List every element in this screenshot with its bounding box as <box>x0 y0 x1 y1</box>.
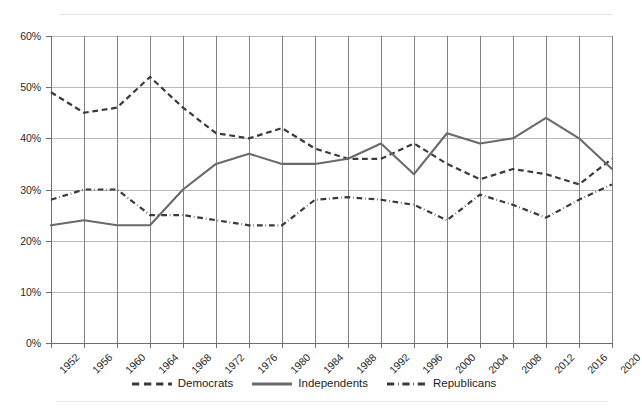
gridline-x-2020 <box>612 36 613 343</box>
legend-swatch-independents <box>252 380 292 388</box>
y-tick-label: 40% <box>20 132 41 144</box>
x-tick-mark <box>612 343 613 348</box>
x-tick-label: 1988 <box>354 351 379 376</box>
y-tick-label: 20% <box>20 235 41 247</box>
x-tick-label: 1992 <box>387 351 412 376</box>
x-tick-label: 1976 <box>255 351 280 376</box>
series-lines <box>51 36 612 345</box>
legend-label: Democrats <box>178 378 234 390</box>
x-tick-label: 2004 <box>486 351 511 376</box>
x-tick-label: 1972 <box>222 351 247 376</box>
chart-legend: DemocratsIndependentsRepublicans <box>0 378 628 390</box>
plot-area: 60%50%40%30%20%10%0% 1952195619601964196… <box>51 36 612 343</box>
x-tick-label: 2000 <box>453 351 478 376</box>
x-tick-label: 2012 <box>552 351 577 376</box>
legend-label: Independents <box>298 378 368 390</box>
y-tick-label: 60% <box>20 30 41 42</box>
x-tick-label: 1996 <box>420 351 445 376</box>
x-tick-label: 1968 <box>189 351 214 376</box>
legend-item-republicans[interactable]: Republicans <box>387 378 496 390</box>
y-tick-label: 10% <box>20 286 41 298</box>
x-tick-label: 2020 <box>618 351 642 376</box>
x-tick-label: 1956 <box>90 351 115 376</box>
y-tick-label: 50% <box>20 81 41 93</box>
x-tick-label: 1984 <box>321 351 346 376</box>
legend-label: Republicans <box>433 378 496 390</box>
x-tick-label: 1952 <box>57 351 82 376</box>
legend-swatch-republicans <box>387 380 427 388</box>
series-line-republicans <box>51 184 612 225</box>
y-tick-label: 0% <box>26 337 41 349</box>
legend-swatch-democrats <box>132 380 172 388</box>
x-tick-label: 2016 <box>585 351 610 376</box>
x-tick-label: 1964 <box>156 351 181 376</box>
y-tick-label: 30% <box>20 184 41 196</box>
x-tick-label: 1960 <box>123 351 148 376</box>
series-line-democrats <box>51 77 612 184</box>
legend-item-democrats[interactable]: Democrats <box>132 378 234 390</box>
bottom-divider-rule <box>56 401 608 402</box>
x-tick-label: 2008 <box>519 351 544 376</box>
x-tick-label: 1980 <box>288 351 313 376</box>
top-divider-rule <box>60 14 612 15</box>
legend-item-independents[interactable]: Independents <box>252 378 368 390</box>
